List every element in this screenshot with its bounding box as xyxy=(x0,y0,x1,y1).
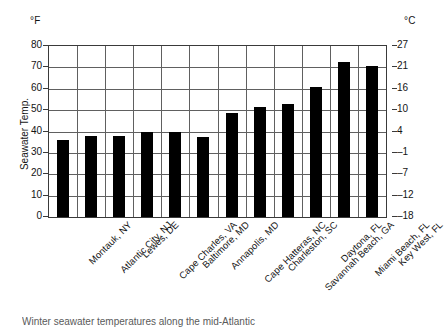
x-tick-label-text: Cape Charles, VA xyxy=(177,219,239,281)
gridline-vertical xyxy=(330,46,331,217)
x-axis-category-labels: Montauk, NYAtlantic City, NJLewes, DECap… xyxy=(48,219,387,319)
bar xyxy=(57,140,69,217)
y-tick-mark-right xyxy=(392,88,397,89)
y-tick-label-left: 50 xyxy=(31,104,42,114)
y-tick-mark-right xyxy=(392,45,397,46)
bar xyxy=(85,136,97,217)
y-tick-label-right: –7 xyxy=(397,168,408,178)
plot-area xyxy=(48,45,387,218)
y-tick-label-right: –1 xyxy=(397,147,408,157)
y-tick-label-left: 0 xyxy=(36,211,42,221)
right-axis-unit-label: °C xyxy=(404,16,416,26)
y-tick-label-right: –12 xyxy=(397,190,414,200)
left-axis-ticks: 01020304050607080 xyxy=(0,45,42,218)
gridline-vertical xyxy=(77,46,78,217)
bar xyxy=(366,66,378,217)
right-axis-ticks: –18–12–7–1410162127 xyxy=(397,45,441,218)
gridline-vertical xyxy=(302,46,303,217)
y-tick-label-right: 21 xyxy=(397,61,408,71)
gridline-vertical xyxy=(105,46,106,217)
y-tick-mark-right xyxy=(392,152,397,153)
y-tick-label-right: 10 xyxy=(397,104,408,114)
y-tick-label-left: 20 xyxy=(31,168,42,178)
y-tick-mark-right xyxy=(392,173,397,174)
gridline-vertical xyxy=(161,46,162,217)
gridline-vertical xyxy=(218,46,219,217)
bar xyxy=(254,107,266,217)
y-tick-label-left: 40 xyxy=(31,126,42,136)
y-tick-label-left: 10 xyxy=(31,190,42,200)
bar xyxy=(113,136,125,217)
x-tick-label: Cape Charles, VA xyxy=(177,219,239,281)
y-tick-mark-right xyxy=(392,109,397,110)
gridline-vertical xyxy=(189,46,190,217)
bar xyxy=(338,62,350,217)
gridline-vertical xyxy=(274,46,275,217)
left-axis-unit-label: °F xyxy=(30,16,41,26)
gridline-vertical xyxy=(246,46,247,217)
y-tick-label-right: 4 xyxy=(397,126,403,136)
y-tick-mark-right xyxy=(392,131,397,132)
bar xyxy=(141,132,153,218)
y-tick-label-right: –18 xyxy=(397,211,414,221)
bar xyxy=(310,87,322,217)
y-tick-label-right: 16 xyxy=(397,83,408,93)
y-tick-label-left: 80 xyxy=(31,40,42,50)
bar xyxy=(197,137,209,217)
y-tick-mark-right xyxy=(392,66,397,67)
y-tick-label-left: 70 xyxy=(31,61,42,71)
y-tick-label-left: 30 xyxy=(31,147,42,157)
y-tick-mark-right xyxy=(392,216,397,217)
bar xyxy=(169,132,181,218)
y-tick-label-left: 60 xyxy=(31,83,42,93)
bar xyxy=(282,104,294,217)
bar xyxy=(226,113,238,217)
y-tick-label-right: 27 xyxy=(397,40,408,50)
gridline-vertical xyxy=(358,46,359,217)
figure-caption: Winter seawater temperatures along the m… xyxy=(22,316,422,328)
gridline-vertical xyxy=(133,46,134,217)
y-tick-mark-right xyxy=(392,195,397,196)
